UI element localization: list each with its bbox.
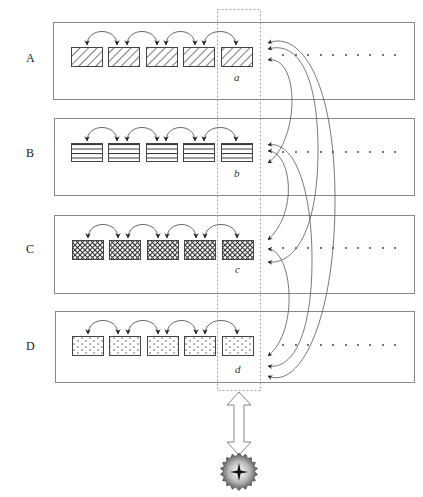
column-label-a: a <box>234 71 240 83</box>
cross-row-arrows <box>268 41 335 378</box>
row-label-c: C <box>26 242 34 256</box>
row-c-cells <box>73 241 254 260</box>
diagram-canvas: A B C D <box>0 0 423 497</box>
row-b-cells <box>72 144 253 162</box>
row-d-cells <box>73 337 254 356</box>
sunburst-star-icon <box>220 453 257 491</box>
column-label-b: b <box>234 167 240 179</box>
double-arrow-icon <box>227 392 251 455</box>
row-label-d: D <box>26 339 35 353</box>
intra-row-arrows <box>87 32 237 335</box>
row-a-cells <box>72 48 253 67</box>
column-label-c: c <box>235 263 240 275</box>
ellipsis-dots <box>282 54 396 346</box>
row-label-b: B <box>26 146 34 160</box>
row-label-a: A <box>26 51 35 65</box>
column-label-d: d <box>235 363 241 375</box>
